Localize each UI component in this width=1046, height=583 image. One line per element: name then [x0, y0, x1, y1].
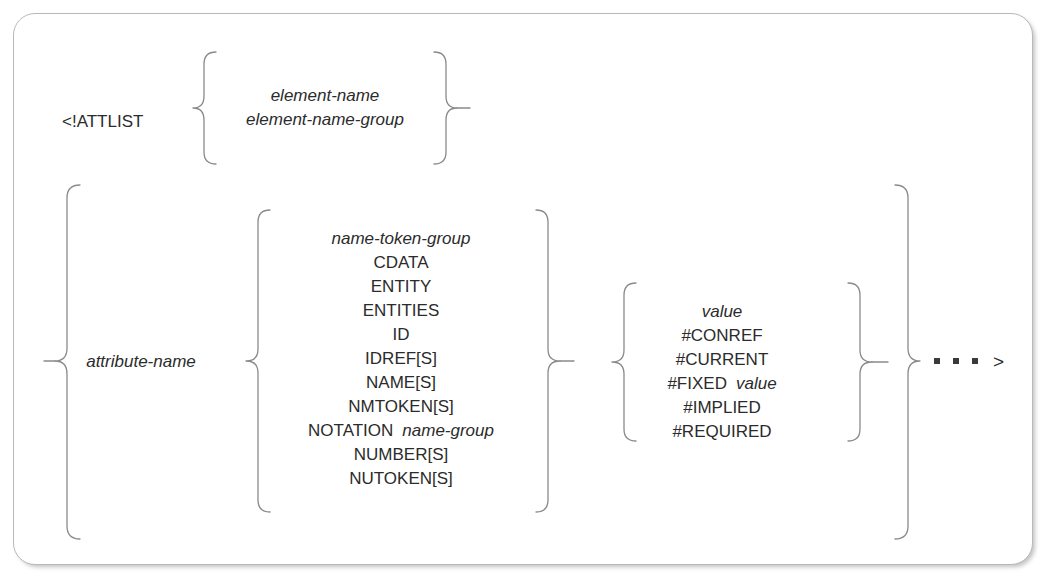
declared-value-option-2: ENTITY: [308, 275, 494, 299]
default-value-option-1: #CONREF: [667, 324, 776, 348]
declared-value-option-5: IDREF[S]: [308, 347, 494, 371]
default-value-option-4: #IMPLIED: [667, 396, 776, 420]
declared-value-options: name-token-group CDATA ENTITY ENTITIES I…: [308, 227, 494, 491]
default-value-option-2: #CURRENT: [667, 348, 776, 372]
default-value-option-0: value: [667, 300, 776, 324]
declared-value-option-8-operand: name-group: [402, 421, 494, 440]
element-spec-option-1: element-name-group: [246, 108, 404, 132]
default-value-option-3: #FIXEDvalue: [667, 372, 776, 396]
declared-value-option-1: CDATA: [308, 251, 494, 275]
default-value-options: value #CONREF #CURRENT #FIXEDvalue #IMPL…: [667, 300, 776, 444]
declared-value-option-0: name-token-group: [308, 227, 494, 251]
element-spec-option-0: element-name: [246, 84, 404, 108]
diagram-frame: [13, 13, 1033, 565]
attlist-keyword: <!ATTLIST: [62, 110, 143, 134]
element-spec-options: element-name element-name-group: [246, 84, 404, 132]
declared-value-option-9: NUMBER[S]: [308, 443, 494, 467]
default-value-option-5: #REQUIRED: [667, 420, 776, 444]
repetition-ellipsis-icon: [934, 358, 978, 364]
declared-value-option-10: NUTOKEN[S]: [308, 467, 494, 491]
declared-value-option-8: NOTATIONname-group: [308, 419, 494, 443]
declared-value-option-6: NAME[S]: [308, 371, 494, 395]
default-value-option-3-keyword: #FIXED: [667, 374, 727, 393]
attribute-name-label: attribute-name: [86, 350, 196, 374]
declared-value-option-4: ID: [308, 323, 494, 347]
declared-value-option-7: NMTOKEN[S]: [308, 395, 494, 419]
syntax-diagram-figure: <!ATTLIST element-name element-name-grou…: [0, 0, 1046, 583]
declared-value-option-8-keyword: NOTATION: [308, 421, 393, 440]
declaration-close-delimiter: >: [993, 351, 1004, 373]
default-value-option-3-operand: value: [736, 374, 777, 393]
declared-value-option-3: ENTITIES: [308, 299, 494, 323]
